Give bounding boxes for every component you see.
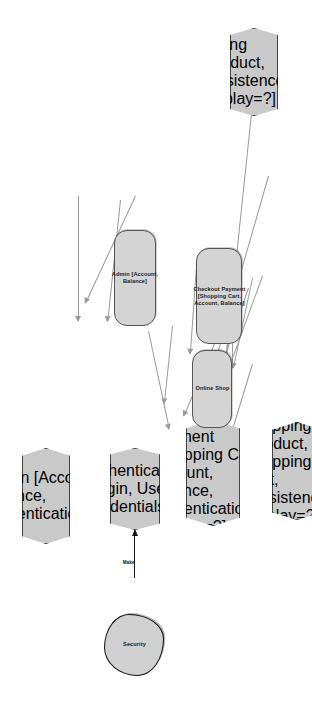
edge-checkout-to-online [164,326,173,404]
arrow-head-icon [180,410,188,418]
arrow-head-icon [75,316,81,322]
variant-checkout-payment[interactable]: Checkout Payment [Shopping Cart, Account… [186,422,238,526]
arrow-head-icon [187,349,193,355]
task-checkout-payment[interactable]: Checkout Payment [Shopping Cart, Account… [196,248,242,344]
arrow-head-icon [165,423,172,430]
task-online-shop[interactable]: Online Shop [192,350,232,428]
variant-authentication[interactable]: Authentication [Login, User, Credentials… [110,450,158,530]
variant-listing-label: Listing [Product, Persistence=?, Display… [201,36,307,108]
contribution-label-make-security: Make [123,560,135,565]
variant-admin-auth-label: Admin [Account, Balance, Authentication=… [0,469,108,523]
task-checkout-payment-label: Checkout Payment [Shopping Cart, Account… [190,285,248,308]
arrow-head-icon [132,529,138,536]
diagram-rotated-layer: Make Some- Make Help Security Usability … [0,0,312,716]
diagram-canvas: Make Some- Make Help Security Usability … [0,0,312,716]
arrow-head-icon [82,297,90,305]
task-online-shop-label: Online Shop [192,385,232,394]
variant-shopping-label: Shopping [Product, Shopping Cart, Persis… [244,417,312,525]
softgoal-security[interactable]: Security [104,614,164,676]
contribution-edge-make-security [134,530,135,578]
softgoal-security-label: Security [120,641,149,650]
variant-authentication-label: Authentication [Login, User, Credentials… [84,462,185,516]
arrow-head-icon [161,398,168,405]
arrow-head-icon [104,316,111,323]
variant-listing[interactable]: Listing [Product, Persistence=?, Display… [230,30,276,116]
task-admin[interactable]: Admin [Account, Balance] [114,230,156,326]
task-admin-label: Admin [Account, Balance] [109,270,161,286]
variant-shopping[interactable]: Shopping [Product, Shopping Cart, Persis… [272,424,312,520]
variant-admin-auth[interactable]: Admin [Account, Balance, Authentication=… [22,450,68,544]
edge-admin-auth-to-admin [78,196,79,321]
